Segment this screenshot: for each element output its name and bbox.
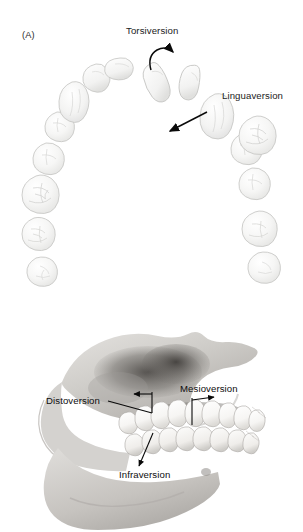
label-linguaversion: Linguaversion xyxy=(222,91,283,101)
lower-tooth-6 xyxy=(210,428,230,452)
tooth-upper-left-first-molar xyxy=(22,175,59,214)
tooth-upper-left-canine xyxy=(59,82,89,123)
label-mesioversion: Mesioversion xyxy=(180,384,238,394)
lower-tooth-8 xyxy=(243,433,259,454)
tooth-upper-left-second-molar xyxy=(22,217,55,250)
label-distoversion: Distoversion xyxy=(46,396,100,406)
label-torsiversion: Torsiversion xyxy=(126,26,178,36)
mental-foramen xyxy=(201,468,211,476)
label-infraversion: Infraversion xyxy=(119,470,170,480)
tooth-upper-left-central-incisor xyxy=(105,58,134,80)
panel-a-dental-arch xyxy=(0,0,303,300)
lower-tooth-row xyxy=(125,427,259,456)
tooth-upper-right-second-molar xyxy=(242,211,277,247)
figure-root: (A) Torsiversion Linguaversion Distovers… xyxy=(0,0,303,532)
tooth-upper-right-first-molar xyxy=(239,116,276,155)
tooth-upper-right-second-premolar xyxy=(239,168,270,200)
tooth-upper-right-lateral-incisor xyxy=(175,62,204,102)
panel-b-lateral-skull xyxy=(0,330,303,530)
tooth-upper-left-second-premolar xyxy=(33,143,64,175)
tooth-upper-right-third-molar xyxy=(248,252,281,283)
tooth-upper-left-third-molar xyxy=(27,257,58,286)
tooth-torsiversion-rotated-incisor xyxy=(139,60,175,106)
upper-tooth-9 xyxy=(249,410,265,432)
lower-tooth-infraversion xyxy=(125,434,144,456)
panel-a-tag: (A) xyxy=(22,31,35,40)
